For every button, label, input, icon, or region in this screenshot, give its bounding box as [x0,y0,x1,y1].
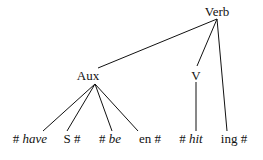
edge-aux-s [67,84,95,131]
node-verb: Verb [205,5,230,19]
node-v: V [191,69,200,83]
leaf-en: en # [139,132,161,146]
leaf-be: # be [99,132,121,146]
leaf-have: # have [13,132,47,146]
node-aux: Aux [77,69,99,83]
leaf-hit: # hit [179,132,202,146]
edge-verb-ing [217,19,227,131]
edge-aux-be [95,84,112,131]
edge-aux-have [43,84,95,131]
edge-aux-en [95,84,138,131]
leaf-s: S # [64,132,81,146]
leaf-ing: ing # [221,132,247,146]
